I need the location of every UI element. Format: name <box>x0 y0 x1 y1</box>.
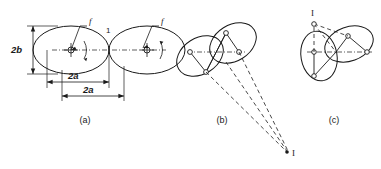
panel-a-width-dimension-upper-label: 2a <box>67 70 79 81</box>
panel-c-joint-right-pivot <box>365 50 370 55</box>
panel-a-friction-label-right: f <box>161 16 165 26</box>
panel-c-instant-center-label: I <box>311 8 314 18</box>
panel-a-width-dimension-lower-label: 2a <box>82 84 94 95</box>
panel-a-friction-leader-left <box>71 26 87 50</box>
panel-b-joint-upper <box>224 31 229 36</box>
panel-a-right-rotation-arrow <box>160 41 163 59</box>
panel-a-caption: (a) <box>80 115 91 125</box>
panel-b: I (b) <box>169 14 295 158</box>
panel-b-projection-line-3 <box>226 62 287 151</box>
panel-c-right-ellipse <box>320 19 379 68</box>
panel-c-instant-center-node <box>312 22 317 27</box>
panel-a-height-dimension-label: 2b <box>10 44 22 55</box>
figure-container: f f 1 2b <box>0 0 381 169</box>
panel-a: f f 1 2b <box>10 16 185 125</box>
panel-b-caption: (b) <box>217 115 228 125</box>
panel-a-left-rotation-arrow <box>84 41 87 61</box>
panel-b-linkage <box>190 33 239 72</box>
panel-a-right-axis-marker <box>140 43 154 57</box>
panel-c-left-ellipse <box>297 28 341 83</box>
panel-b-joint-left-pivot <box>188 50 193 55</box>
panel-b-instant-center-node <box>285 150 289 154</box>
panel-a-friction-label-left: f <box>89 16 93 26</box>
panel-c-caption: (c) <box>329 115 340 125</box>
panel-b-projection-line-1 <box>206 72 286 151</box>
panel-a-friction-leader-right <box>143 26 159 48</box>
panel-c-joint-lower <box>312 74 317 79</box>
panel-c-linkage <box>314 36 367 76</box>
elliptical-rotor-diagram: f f 1 2b <box>0 0 381 169</box>
panel-c: I (c) <box>297 8 378 125</box>
panel-b-instant-center-label: I <box>292 148 295 158</box>
panel-a-contact-point-label: 1 <box>106 26 111 35</box>
panel-b-projection-line-2 <box>239 52 288 151</box>
panel-a-width-dimension-upper <box>47 48 109 88</box>
